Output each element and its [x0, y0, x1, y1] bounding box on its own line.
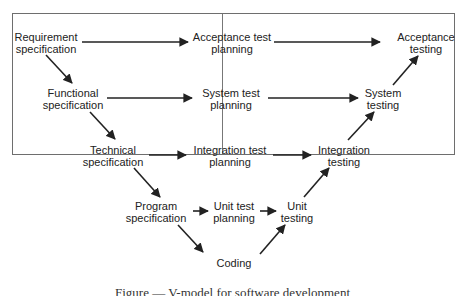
node-label: Functional	[40, 87, 106, 99]
node-label: testing	[275, 212, 319, 224]
node-system-test-planning: System test planning	[196, 87, 266, 111]
node-label: specification	[13, 43, 79, 55]
node-unit-test-planning: Unit test planning	[208, 200, 260, 224]
node-integration-test-planning: Integration test planning	[187, 144, 273, 168]
node-label: Integration test	[187, 144, 273, 156]
node-label: testing	[358, 99, 408, 111]
node-label: Coding	[204, 257, 264, 269]
node-system-testing: System testing	[358, 87, 408, 111]
node-technical-specification: Technical specification	[80, 144, 146, 168]
node-label: specification	[40, 99, 106, 111]
node-label: planning	[208, 212, 260, 224]
node-functional-specification: Functional specification	[40, 87, 106, 111]
node-label: Acceptance	[393, 31, 459, 43]
node-label: System test	[196, 87, 266, 99]
node-label: planning	[187, 156, 273, 168]
node-unit-testing: Unit testing	[275, 200, 319, 224]
node-label: Acceptance test	[189, 31, 275, 43]
node-label: testing	[311, 156, 377, 168]
node-label: Requirement	[13, 31, 79, 43]
node-label: Unit test	[208, 200, 260, 212]
node-requirement-specification: Requirement specification	[13, 31, 79, 55]
node-label: Unit	[275, 200, 319, 212]
node-acceptance-test-planning: Acceptance test planning	[189, 31, 275, 55]
node-label: System	[358, 87, 408, 99]
node-label: testing	[393, 43, 459, 55]
node-label: Technical	[80, 144, 146, 156]
figure-caption: Figure — V-model for software developmen…	[0, 286, 465, 296]
node-label: Program	[123, 200, 189, 212]
node-coding: Coding	[204, 257, 264, 269]
node-acceptance-testing: Acceptance testing	[393, 31, 459, 55]
node-label: planning	[196, 99, 266, 111]
node-integration-testing: Integration testing	[311, 144, 377, 168]
node-label: planning	[189, 43, 275, 55]
node-program-specification: Program specification	[123, 200, 189, 224]
node-label: specification	[80, 156, 146, 168]
node-label: specification	[123, 212, 189, 224]
caption-text: Figure — V-model for software developmen…	[0, 286, 465, 296]
node-label: Integration	[311, 144, 377, 156]
